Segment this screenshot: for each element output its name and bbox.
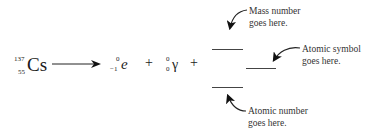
mass-number-blank[interactable] — [212, 49, 243, 50]
gamma-mass-number: 0 — [166, 55, 170, 63]
annotation-line: Atomic symbol — [302, 43, 361, 55]
electron-mass-number: 0 — [116, 55, 120, 63]
atomic-symbol-annotation: Atomic symbol goes here. — [302, 43, 361, 67]
annotation-line: goes here. — [302, 55, 361, 67]
electron-atomic-number: −1 — [110, 65, 117, 73]
annotation-line: Mass number — [249, 5, 300, 17]
gamma-atomic-number: 0 — [166, 65, 170, 73]
reactant-atomic-number: 55 — [18, 68, 25, 76]
annotation-line: goes here. — [249, 17, 300, 29]
atomic-symbol-blank[interactable] — [246, 68, 276, 69]
atomic-number-annotation: Atomic number goes here. — [248, 105, 308, 129]
diagram-arrows — [0, 0, 373, 137]
atomic-symbol-pointer-icon — [274, 48, 300, 60]
annotation-line: Atomic number — [248, 105, 308, 117]
atomic-number-pointer-icon — [228, 96, 246, 111]
plus-sign: + — [190, 55, 198, 71]
atomic-number-blank[interactable] — [212, 87, 243, 88]
mass-number-annotation: Mass number goes here. — [249, 5, 300, 29]
reactant-mass-number: 137 — [14, 55, 25, 63]
mass-number-pointer-icon — [230, 10, 247, 28]
electron-symbol: e — [121, 56, 128, 73]
gamma-symbol: γ — [172, 57, 178, 73]
plus-sign: + — [145, 55, 153, 71]
reactant-symbol: Cs — [27, 54, 47, 76]
annotation-line: goes here. — [248, 117, 308, 129]
